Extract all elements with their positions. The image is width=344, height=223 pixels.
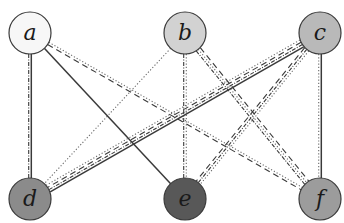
- nodes-layer: a b c d e f: [9, 12, 341, 220]
- edge-line-dashed: [48, 42, 302, 187]
- edge-c-f: [319, 54, 322, 178]
- edge-line-solid: [50, 47, 304, 192]
- edge-line-dotted: [200, 51, 309, 184]
- edge-line-dotted: [49, 42, 303, 187]
- edges-layer: [29, 40, 322, 192]
- edge-line-dashdot: [49, 45, 303, 190]
- node-e: e: [164, 178, 206, 220]
- node-c-label: c: [314, 20, 326, 45]
- edge-a-f: [48, 42, 303, 189]
- node-c: c: [299, 12, 341, 54]
- node-e-label: e: [178, 186, 191, 211]
- node-a-label: a: [23, 20, 36, 45]
- edge-line-dotted: [46, 40, 300, 185]
- node-f: f: [299, 178, 341, 220]
- edge-a-d: [29, 54, 32, 178]
- bipartite-graph-diagram: a b c d e f: [0, 0, 344, 223]
- node-d-label: d: [23, 186, 37, 211]
- node-a: a: [9, 12, 51, 54]
- edge-line-dashed: [48, 45, 302, 190]
- node-d: d: [9, 178, 51, 220]
- node-b: b: [164, 12, 206, 54]
- node-b-label: b: [178, 20, 192, 45]
